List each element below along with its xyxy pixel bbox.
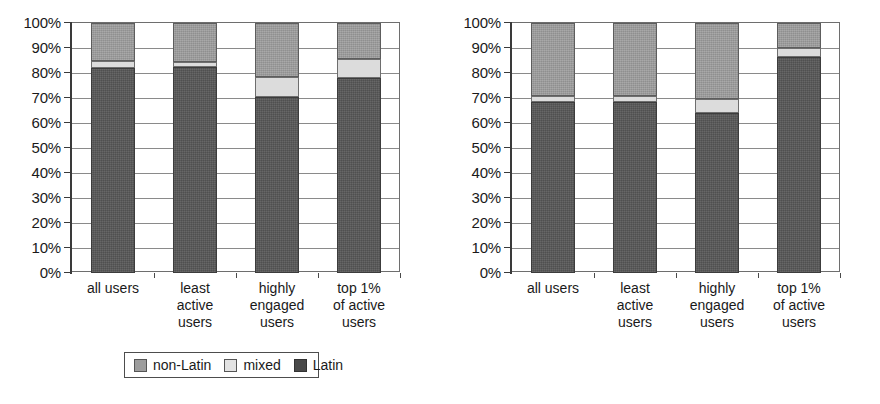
y-axis-tick	[64, 172, 70, 173]
stacked-bar[interactable]	[173, 23, 217, 273]
y-axis-tick	[64, 22, 70, 23]
y-axis-tick	[504, 97, 510, 98]
bar-slot	[512, 23, 594, 273]
plot-area-left: 100%90%80%70%60%50%40%30%20%10%0%	[70, 22, 400, 274]
y-axis-tick-label: 90%	[472, 40, 501, 55]
x-axis-tick	[758, 273, 759, 278]
y-axis-tick-label: 0%	[480, 265, 501, 280]
y-axis-tick-label: 20%	[472, 215, 501, 230]
bar-segment-non-latin	[337, 23, 381, 59]
category-label: highly engaged users	[676, 280, 758, 331]
legend-left: non-LatinmixedLatin	[124, 352, 319, 378]
x-axis-tick	[318, 273, 319, 278]
stacked-bar[interactable]	[337, 23, 381, 273]
y-axis-tick-label: 10%	[32, 240, 61, 255]
bar-segment-latin	[173, 67, 217, 273]
chart-panel-left: 100%90%80%70%60%50%40%30%20%10%0% all us…	[0, 0, 440, 404]
legend-label: Latin	[313, 358, 343, 372]
legend-label: mixed	[243, 358, 280, 372]
category-label: top 1% of active users	[758, 280, 840, 331]
bar-segment-non-latin	[173, 23, 217, 62]
bar-segment-mixed	[337, 59, 381, 78]
y-axis-tick-label: 0%	[40, 265, 61, 280]
stacked-bar[interactable]	[695, 23, 739, 273]
y-axis-tick-label: 100%	[463, 15, 501, 30]
stacked-bar[interactable]	[91, 23, 135, 273]
legend-item[interactable]: mixed	[224, 358, 280, 372]
bar-segment-non-latin	[613, 23, 657, 96]
category-label: highly engaged users	[236, 280, 318, 331]
legend-label: non-Latin	[153, 358, 211, 372]
y-axis-tick-label: 50%	[472, 140, 501, 155]
y-axis-tick-label: 40%	[32, 165, 61, 180]
y-axis-tick	[504, 197, 510, 198]
plot-area-right: 100%90%80%70%60%50%40%30%20%10%0%	[510, 22, 840, 274]
y-axis-tick	[504, 172, 510, 173]
bar-segment-mixed	[777, 48, 821, 57]
stacked-bar[interactable]	[255, 23, 299, 273]
x-axis-tick	[154, 273, 155, 278]
chart-panel-right: 100%90%80%70%60%50%40%30%20%10%0% all us…	[440, 0, 880, 404]
bar-segment-mixed	[173, 62, 217, 67]
y-axis-tick	[504, 222, 510, 223]
y-axis-tick	[504, 247, 510, 248]
legend-item[interactable]: non-Latin	[134, 358, 211, 372]
bar-slot	[594, 23, 676, 273]
legend-swatch-mixed-icon	[224, 359, 237, 372]
stacked-bar[interactable]	[613, 23, 657, 273]
category-labels-left: all usersleast active usershighly engage…	[72, 280, 400, 344]
y-axis-tick	[504, 72, 510, 73]
bar-segment-latin	[255, 97, 299, 273]
y-axis-tick-label: 10%	[472, 240, 501, 255]
y-axis-tick	[504, 47, 510, 48]
bar-segment-latin	[91, 68, 135, 273]
y-axis-tick-label: 80%	[472, 65, 501, 80]
legend-swatch-latin-icon	[294, 359, 307, 372]
y-axis-tick	[504, 122, 510, 123]
stacked-bar[interactable]	[777, 23, 821, 273]
bars-left	[72, 23, 399, 273]
category-label: all users	[72, 280, 154, 297]
bar-slot	[318, 23, 400, 273]
y-axis-tick-label: 30%	[32, 190, 61, 205]
bar-segment-mixed	[255, 77, 299, 97]
bar-segment-mixed	[695, 99, 739, 113]
legend-swatch-nonlatin-icon	[134, 359, 147, 372]
category-label: least active users	[594, 280, 676, 331]
bar-segment-non-latin	[531, 23, 575, 96]
y-axis-tick	[64, 72, 70, 73]
stacked-bar[interactable]	[531, 23, 575, 273]
y-axis-tick	[64, 272, 70, 273]
y-axis-tick	[504, 147, 510, 148]
y-axis-tick-label: 70%	[32, 90, 61, 105]
y-axis-tick-label: 60%	[472, 115, 501, 130]
x-axis-tick	[236, 273, 237, 278]
bar-slot	[154, 23, 236, 273]
x-axis-tick	[400, 273, 401, 278]
legend-item[interactable]: Latin	[294, 358, 343, 372]
bars-right	[512, 23, 839, 273]
category-labels-right: all usersleast active usershighly engage…	[512, 280, 840, 344]
bar-segment-latin	[777, 57, 821, 273]
bar-segment-latin	[695, 113, 739, 273]
y-axis-tick	[504, 272, 510, 273]
y-axis-tick-label: 30%	[472, 190, 501, 205]
category-label: least active users	[154, 280, 236, 331]
plot-frame-left	[72, 22, 400, 272]
y-axis-tick-label: 20%	[32, 215, 61, 230]
x-axis-tick	[840, 273, 841, 278]
bar-segment-non-latin	[695, 23, 739, 99]
category-label: top 1% of active users	[318, 280, 400, 331]
y-axis-tick-label: 100%	[23, 15, 61, 30]
bar-segment-latin	[613, 102, 657, 273]
bar-segment-latin	[337, 78, 381, 273]
x-axis-tick	[676, 273, 677, 278]
chart-page: 100%90%80%70%60%50%40%30%20%10%0% all us…	[0, 0, 880, 404]
y-axis-tick-label: 40%	[472, 165, 501, 180]
category-label: all users	[512, 280, 594, 297]
bar-segment-mixed	[91, 61, 135, 69]
y-axis-tick-label: 60%	[32, 115, 61, 130]
bar-segment-non-latin	[91, 23, 135, 61]
y-axis-tick-label: 70%	[472, 90, 501, 105]
y-axis-tick	[64, 247, 70, 248]
